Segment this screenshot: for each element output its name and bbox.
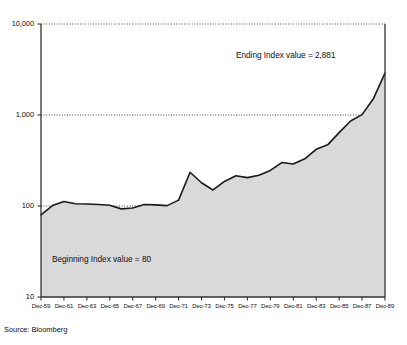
x-tick-label: Dec-89 (369, 303, 401, 309)
source-note: Source: Bloomberg (4, 325, 67, 334)
y-tick-label: 10,000 (0, 19, 34, 28)
y-tick-label: 1,000 (0, 110, 34, 119)
ending-value-annotation: Ending Index value = 2,881 (236, 50, 336, 60)
chart-container: 10,0001,00010010 Dec-59Dec-61Dec-63Dec-6… (0, 0, 407, 345)
y-tick-label: 10 (0, 292, 34, 301)
y-tick-label: 100 (0, 201, 34, 210)
beginning-value-annotation: Beginning Index value = 80 (52, 254, 151, 264)
chart-plot-svg (0, 0, 407, 345)
